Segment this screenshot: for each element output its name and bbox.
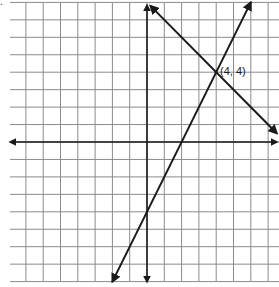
coordinate-graph <box>0 0 279 287</box>
axes <box>10 5 277 282</box>
intersection-label: (4, 4) <box>220 65 246 77</box>
intersection-point <box>215 71 218 74</box>
line-decreasing <box>150 6 276 133</box>
